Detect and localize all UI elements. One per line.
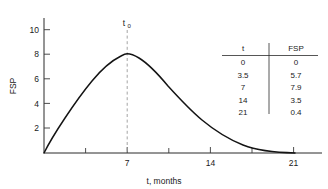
y-tick-label-2: 2 [34, 123, 39, 133]
table-cell-fsp: 5.7 [290, 71, 302, 80]
x-axis-ticks [127, 147, 293, 153]
y-tick-label-10: 10 [30, 25, 40, 35]
table-row: 14 3.5 [239, 96, 303, 105]
data-table: t FSP 0 0 3.5 5.7 7 7.9 14 3.5 21 0.4 [222, 43, 318, 117]
y-tick-label-8: 8 [34, 49, 39, 59]
x-tick-label-21: 21 [289, 158, 299, 168]
x-tick-label-14: 14 [206, 158, 216, 168]
table-cell-t: 21 [239, 108, 248, 117]
table-cell-t: 0 [241, 58, 246, 67]
fsp-curve [44, 54, 295, 153]
table-cell-fsp: 0.4 [290, 108, 302, 117]
y-axis-title: FSP [8, 77, 18, 94]
x-axis-minor-ticks [86, 148, 252, 153]
table-cell-fsp: 3.5 [290, 96, 302, 105]
t-zero-label: t 0 [123, 18, 132, 29]
y-axis-ticks [44, 30, 50, 128]
table-header-t: t [242, 44, 245, 53]
y-tick-label-6: 6 [34, 74, 39, 84]
table-header-fsp: FSP [288, 44, 304, 53]
table-cell-t: 14 [239, 96, 248, 105]
table-cell-t: 7 [241, 83, 246, 92]
table-cell-fsp: 7.9 [290, 83, 302, 92]
y-tick-label-4: 4 [34, 99, 39, 109]
table-row: 7 7.9 [241, 83, 302, 92]
x-axis-title: t, months [147, 176, 182, 186]
table-cell-t: 3.5 [237, 71, 249, 80]
table-cell-fsp: 0 [294, 58, 299, 67]
table-row: 21 0.4 [239, 108, 303, 117]
t-zero-label-subscript: 0 [128, 23, 132, 29]
table-row: 3.5 5.7 [237, 71, 302, 80]
x-tick-label-7: 7 [125, 158, 130, 168]
t-zero-label-text: t [123, 18, 126, 28]
fsp-vs-time-chart: 10 8 6 4 2 FSP 7 14 21 t, months t 0 t F… [0, 0, 328, 189]
table-row: 0 0 [241, 58, 299, 67]
